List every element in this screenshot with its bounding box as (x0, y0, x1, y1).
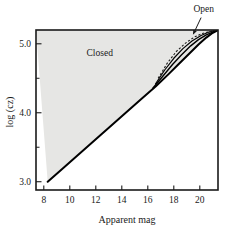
open-annotation-label: Open (193, 4, 214, 14)
x-tick-label: 20 (195, 195, 205, 205)
x-tick-label: 14 (117, 195, 127, 205)
chart-svg: 8101214161820 3.04.05.0 Closed Open Appa… (0, 0, 238, 236)
y-tick-label: 5.0 (19, 39, 31, 49)
x-axis-title: Apparent mag (99, 214, 156, 225)
closed-region-label: Closed (87, 48, 114, 58)
y-tick-label: 3.0 (19, 177, 31, 187)
x-tick-label: 8 (41, 195, 46, 205)
x-tick-label: 18 (169, 195, 179, 205)
chart-figure: 8101214161820 3.04.05.0 Closed Open Appa… (0, 0, 238, 236)
x-tick-label: 10 (65, 195, 75, 205)
x-tick-label: 12 (91, 195, 101, 205)
y-axis-title: log (cz) (4, 97, 16, 128)
y-tick-label: 4.0 (19, 108, 31, 118)
x-tick-label: 16 (143, 195, 153, 205)
plot-area: 8101214161820 3.04.05.0 (19, 30, 218, 205)
